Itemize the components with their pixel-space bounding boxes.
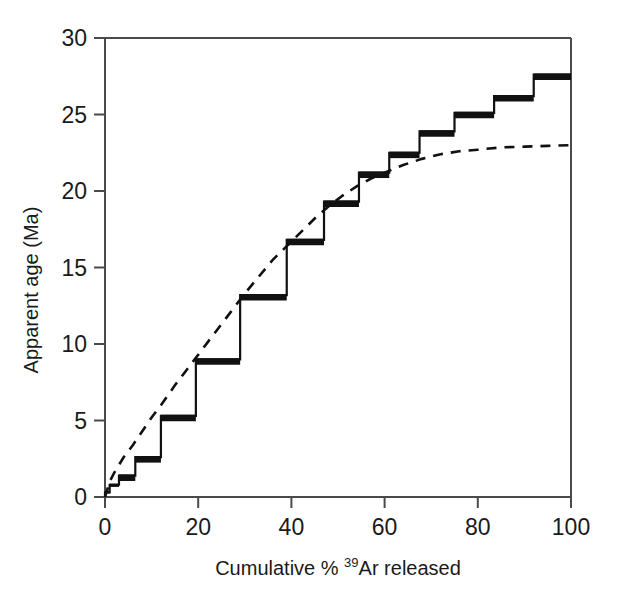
y-axis-ticks [94,38,105,497]
x-tick-label: 0 [99,514,112,540]
y-axis-title: Apparent age (Ma) [20,207,42,374]
y-tick-label: 15 [61,255,87,281]
x-axis-title-before: Cumulative % [215,557,344,579]
y-tick-label: 10 [61,331,87,357]
y-tick-label: 20 [61,178,87,204]
x-tick-label: 40 [279,514,305,540]
apparent-age-spectrum-chart: 051015202530 020406080100 Apparent age (… [0,0,618,597]
chart-figure: 051015202530 020406080100 Apparent age (… [0,0,618,597]
x-axis-tick-labels: 020406080100 [99,514,591,540]
y-axis-tick-labels: 051015202530 [61,25,87,510]
x-tick-label: 60 [372,514,398,540]
x-tick-label: 20 [185,514,211,540]
x-axis-title-superscript: 39 [344,555,358,570]
plot-axes [105,38,571,497]
x-tick-label: 100 [552,514,590,540]
axis-frame [105,38,571,497]
modelled-diffusion-curve [105,145,571,497]
x-tick-label: 80 [465,514,491,540]
step-spectrum-plateaus [105,77,571,493]
y-tick-label: 5 [74,408,87,434]
y-tick-label: 0 [74,484,87,510]
step-spectrum-outline [105,75,571,497]
x-axis-ticks [105,497,571,508]
x-axis-title-after: Ar released [359,557,461,579]
y-tick-label: 30 [61,25,87,51]
y-tick-label: 25 [61,102,87,128]
x-axis-title: Cumulative % 39Ar released [215,555,461,579]
